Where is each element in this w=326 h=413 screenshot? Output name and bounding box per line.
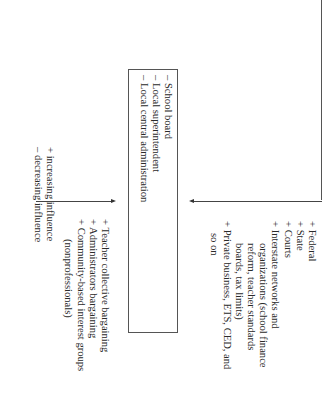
list-item-continuation: (nonprofessionals) xyxy=(62,219,74,409)
list-item-label: Courts xyxy=(283,230,294,258)
minus-sign: – xyxy=(163,75,174,80)
list-item: – Local superintendent xyxy=(150,75,162,332)
minus-sign: – xyxy=(33,147,44,152)
list-item-continuation: so on xyxy=(208,221,220,411)
arrow-head-icon xyxy=(111,199,116,203)
list-item: + Courts xyxy=(281,221,293,411)
list-item-label: Local superintendent xyxy=(151,83,162,172)
plus-sign: + xyxy=(222,221,233,227)
list-item-label: Community-based interest groups xyxy=(76,228,87,372)
list-item: + Federal xyxy=(306,221,318,411)
plus-sign: + xyxy=(45,147,56,153)
list-item: + State xyxy=(294,221,306,411)
list-item-continuation: reform, teacher standards xyxy=(245,221,257,411)
page-edge-line xyxy=(321,0,322,200)
influence-diagram: + Federal + State + Courts + Interstate … xyxy=(0,0,326,413)
plus-sign: + xyxy=(76,219,87,225)
minus-sign: – xyxy=(139,75,150,80)
local-governance-box: – School board – Local superintendent – … xyxy=(128,69,178,333)
list-item-label: Teacher collective bargaining xyxy=(100,227,111,352)
list-item-label: State xyxy=(295,230,306,251)
list-item: + Interstate networks and xyxy=(269,221,281,411)
external-arrow-line xyxy=(193,201,322,202)
plus-sign: + xyxy=(307,221,318,227)
legend-label: increasing influence xyxy=(45,156,56,242)
list-item: + Teacher collective bargaining xyxy=(99,219,111,409)
plus-sign: + xyxy=(100,219,111,225)
arrow-head-icon xyxy=(189,199,194,203)
legend-item: + increasing influence xyxy=(44,147,56,242)
list-item-label: Private business, ETS, CED, and xyxy=(222,230,233,370)
list-item-label: Federal xyxy=(307,230,318,262)
list-item-continuation: boards, tax limits) xyxy=(233,221,245,411)
list-item-label: School board xyxy=(163,83,174,139)
legend: + increasing influence – decreasing infl… xyxy=(32,147,56,242)
list-item: – Local central administration xyxy=(137,75,149,332)
plus-sign: + xyxy=(88,219,99,225)
internal-influences-list: + Teacher collective bargaining + Admini… xyxy=(62,219,111,409)
plus-sign: + xyxy=(270,221,281,227)
legend-item: – decreasing influence xyxy=(32,147,44,242)
plus-sign: + xyxy=(283,221,294,227)
list-item-label: Administrators bargaining xyxy=(88,227,99,338)
list-item: + Private business, ETS, CED, and xyxy=(220,221,232,411)
list-item: – School board xyxy=(162,75,174,332)
list-item-label: Interstate networks and xyxy=(270,230,281,329)
list-item: + Administrators bargaining xyxy=(87,219,99,409)
plus-sign: + xyxy=(295,221,306,227)
list-item-continuation: organizations (school finance xyxy=(257,221,269,411)
list-item: + Community-based interest groups xyxy=(74,219,86,409)
list-item-label: Local central administration xyxy=(139,83,150,202)
minus-sign: – xyxy=(151,75,162,80)
legend-label: decreasing influence xyxy=(33,155,44,242)
external-influences-list: + Federal + State + Courts + Interstate … xyxy=(208,221,318,411)
